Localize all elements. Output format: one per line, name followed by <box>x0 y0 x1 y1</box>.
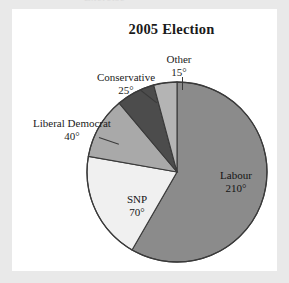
slice-label-snp-name: SNP <box>109 193 165 206</box>
slice-label-snp: SNP 70° <box>109 193 165 220</box>
figure-card: 2005 Election Other <box>12 9 277 271</box>
slice-label-conservative-value: 25° <box>78 84 174 97</box>
cut-off-text-sliver: Exercise <box>0 0 289 9</box>
slice-label-conservative-name: Conservative <box>78 71 174 84</box>
cut-off-text: Exercise <box>84 0 125 3</box>
slice-label-conservative: Conservative 25° <box>78 71 174 98</box>
slice-label-liberal-democrat-value: 40° <box>16 130 128 143</box>
slice-label-labour: Labour 210° <box>205 169 267 196</box>
slice-label-labour-value: 210° <box>205 182 267 195</box>
slice-label-snp-value: 70° <box>109 206 165 219</box>
slice-label-liberal-democrat-name: Liberal Democrat <box>16 117 128 130</box>
chart-title: 2005 Election <box>12 21 277 38</box>
slice-label-other-name: Other <box>152 53 206 66</box>
slice-label-labour-name: Labour <box>205 169 267 182</box>
slice-label-liberal-democrat: Liberal Democrat 40° <box>16 117 128 144</box>
pie-chart-figure: 2005 Election Other <box>12 9 277 271</box>
